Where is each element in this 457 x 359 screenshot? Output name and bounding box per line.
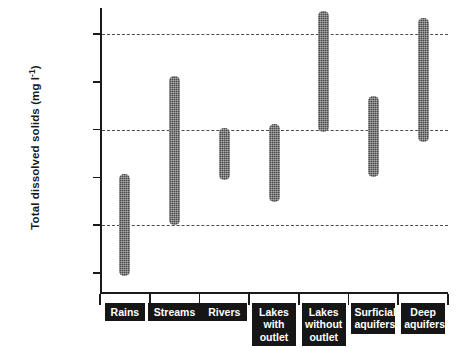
y-axis-tick bbox=[93, 224, 102, 226]
range-bar bbox=[119, 174, 130, 277]
y-axis-line bbox=[100, 8, 102, 293]
range-bar bbox=[219, 128, 230, 180]
y-axis-title-exponent: -1 bbox=[27, 69, 37, 77]
y-axis-tick bbox=[93, 272, 102, 274]
gridline bbox=[102, 225, 448, 226]
y-axis-tick bbox=[93, 129, 102, 131]
x-axis-category-label: Rains bbox=[105, 303, 145, 321]
x-axis-category-label: Rivers bbox=[201, 303, 247, 321]
range-bar bbox=[269, 124, 280, 202]
range-bar bbox=[318, 11, 329, 132]
y-axis-tick bbox=[93, 81, 102, 83]
y-axis-tick bbox=[93, 177, 102, 179]
y-axis-title-text: Total dissolved solids (mg l bbox=[29, 77, 41, 230]
gridline bbox=[102, 34, 448, 35]
x-axis-category-label: Surficial aquifers bbox=[351, 303, 395, 334]
chart-container: Total dissolved solids (mg l-1) 100,0001… bbox=[0, 0, 457, 359]
x-axis-category-label: Lakes with outlet bbox=[252, 303, 296, 346]
x-axis-category-label: Deep aquifers bbox=[401, 303, 445, 334]
y-axis-tick bbox=[93, 33, 102, 35]
x-axis-label-group: RainsStreamsRiversLakes with outletLakes… bbox=[100, 303, 448, 359]
range-bar bbox=[169, 76, 180, 225]
range-bar bbox=[418, 18, 429, 142]
y-axis-title-paren: ) bbox=[29, 65, 41, 69]
plot-area: 100,00010,0001,000100101 bbox=[100, 8, 448, 293]
x-axis-category-label: Lakes without outlet bbox=[302, 303, 346, 346]
x-axis-line bbox=[100, 292, 448, 294]
x-axis-category-label: Streams bbox=[148, 303, 200, 321]
range-bar bbox=[368, 96, 379, 177]
y-axis-title: Total dissolved solids (mg l-1) bbox=[27, 47, 42, 247]
